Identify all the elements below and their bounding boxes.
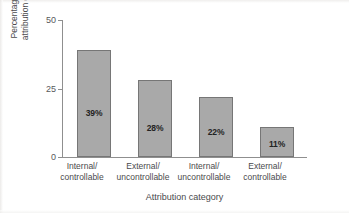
plot-area: 0 25 50 39% 28% 22% 11%	[62, 20, 307, 157]
bar-external-controllable[interactable]: 11%	[260, 127, 294, 157]
x-axis-line	[62, 157, 307, 158]
bar-internal-controllable[interactable]: 39%	[77, 50, 111, 157]
y-axis-title-line-2: attribution category	[20, 0, 31, 58]
x-category-label-3: External/ controllable	[230, 161, 300, 183]
y-tick-mark-25	[58, 89, 62, 90]
y-tick-mark-50	[58, 20, 62, 21]
x-category-label-3-line-2: controllable	[230, 172, 300, 183]
bar-external-uncontrollable[interactable]: 28%	[138, 80, 172, 157]
bar-value-0: 39%	[78, 108, 110, 118]
bar-value-1: 28%	[139, 123, 171, 133]
y-axis-title: Percentage use of attribution category	[9, 0, 31, 58]
scan-edge-bottom	[0, 210, 349, 213]
bar-chart-figure: 0 25 50 39% 28% 22% 11% Internal/ contro…	[0, 0, 349, 213]
scan-edge-top	[0, 0, 349, 3]
y-tick-label-25: 25	[46, 84, 56, 94]
x-axis-title: Attribution category	[62, 192, 307, 202]
bar-internal-uncontrollable[interactable]: 22%	[199, 97, 233, 157]
bar-value-2: 22%	[200, 127, 232, 137]
x-category-label-3-line-1: External/	[230, 161, 300, 172]
y-tick-mark-0	[58, 157, 62, 158]
y-tick-label-50: 50	[46, 15, 56, 25]
scan-edge-left	[0, 0, 3, 213]
y-axis-title-line-1: Percentage use of	[9, 0, 20, 58]
bar-value-3: 11%	[261, 139, 293, 149]
